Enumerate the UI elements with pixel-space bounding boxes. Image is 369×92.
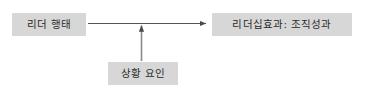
node-leader-behavior: 리더 행태	[12, 13, 86, 36]
flow-diagram-canvas: 리더 행태 리더십효과: 조직성과 상황 요인	[0, 0, 369, 92]
node-situational-factors-label: 상황 요인	[121, 68, 165, 79]
node-situational-factors: 상황 요인	[108, 62, 178, 85]
node-leader-behavior-label: 리더 행태	[27, 19, 71, 30]
node-leadership-effect: 리더십효과: 조직성과	[212, 13, 352, 36]
node-leadership-effect-label: 리더십효과: 조직성과	[232, 19, 331, 30]
